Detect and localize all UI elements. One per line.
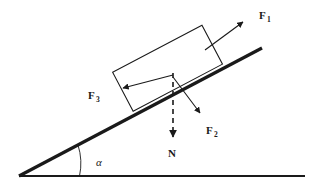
- label-f2-symbol: F: [206, 124, 213, 136]
- label-f1-symbol: F: [259, 9, 266, 21]
- force-arrow-f1: [205, 22, 243, 50]
- label-f1: F 1: [259, 9, 271, 24]
- label-angle-symbol: α: [96, 156, 102, 168]
- label-normal-symbol: N: [168, 147, 176, 159]
- label-normal: N: [168, 147, 176, 159]
- label-f2: F 2: [206, 124, 218, 139]
- label-angle: α: [96, 156, 102, 168]
- diagram-canvas: F 1 F 2 F 3 N α: [0, 0, 317, 193]
- label-f3-subscript: 3: [96, 95, 100, 104]
- force-arrow-f3: [123, 75, 173, 88]
- label-f3: F 3: [88, 89, 100, 104]
- physics-diagram-figure: F 1 F 2 F 3 N α: [0, 0, 317, 193]
- angle-arc: [78, 145, 81, 176]
- label-f1-subscript: 1: [267, 15, 271, 24]
- label-f2-subscript: 2: [214, 130, 218, 139]
- label-f3-symbol: F: [88, 89, 95, 101]
- inclined-surface-line: [19, 48, 262, 176]
